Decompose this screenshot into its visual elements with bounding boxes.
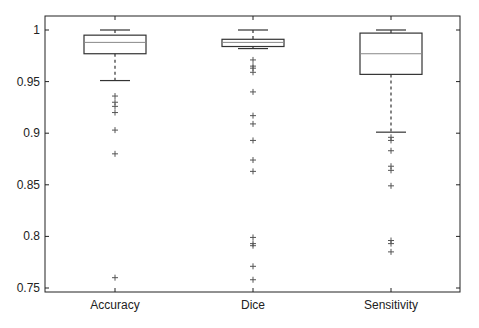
y-tick-label: 1 (33, 23, 40, 37)
box-dice (222, 30, 284, 283)
category-label: Accuracy (90, 298, 139, 312)
y-tick-label: 0.75 (17, 281, 41, 295)
box-plot-chart: 0.750.80.850.90.951 AccuracyDiceSensitiv… (0, 0, 479, 328)
box-sensitivity (360, 30, 422, 255)
box-accuracy (84, 30, 146, 281)
y-tick-label: 0.8 (23, 229, 40, 243)
plot-area (84, 30, 422, 283)
y-tick-label: 0.9 (23, 126, 40, 140)
iqr-box (222, 39, 284, 46)
y-tick-label: 0.85 (17, 178, 41, 192)
y-tick-label: 0.95 (17, 75, 41, 89)
category-label: Dice (241, 298, 265, 312)
category-label: Sensitivity (364, 298, 418, 312)
y-axis: 0.750.80.850.90.951 (17, 23, 460, 295)
iqr-box (84, 35, 146, 54)
